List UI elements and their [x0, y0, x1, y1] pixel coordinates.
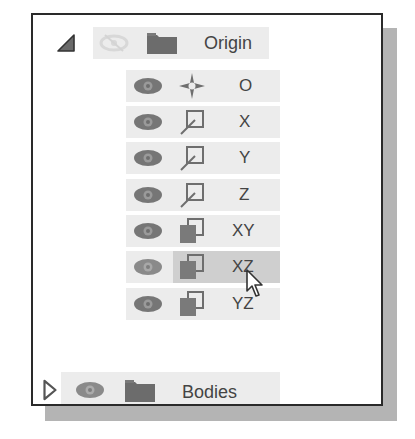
folder-icon: [124, 379, 156, 402]
tree-item-axis-y[interactable]: Y: [33, 142, 381, 174]
eye-icon[interactable]: [133, 186, 163, 204]
eye-hidden-icon[interactable]: [99, 33, 129, 53]
folder-icon: [146, 32, 178, 55]
collapse-triangle-icon[interactable]: [55, 32, 77, 54]
folder-label: Bodies: [182, 376, 237, 406]
eye-icon[interactable]: [133, 77, 163, 95]
axis-icon: [179, 181, 207, 209]
item-label: O: [239, 70, 252, 102]
origin-point-icon: [178, 72, 206, 100]
plane-icon: [177, 289, 207, 319]
tree-folder-origin[interactable]: Origin: [33, 27, 381, 59]
eye-icon[interactable]: [75, 381, 105, 399]
axis-icon: [179, 108, 207, 136]
expand-triangle-icon[interactable]: [39, 379, 61, 401]
tree-item-axis-z[interactable]: Z: [33, 179, 381, 211]
eye-icon[interactable]: [133, 258, 163, 276]
item-label: X: [239, 106, 250, 138]
axis-icon: [179, 144, 207, 172]
tree-folder-bodies[interactable]: Bodies: [33, 372, 381, 404]
eye-icon[interactable]: [133, 222, 163, 240]
plane-icon: [177, 252, 207, 282]
item-label: YZ: [232, 288, 254, 320]
item-label: Y: [239, 142, 250, 174]
item-label: XZ: [232, 251, 254, 283]
folder-label: Origin: [204, 27, 252, 59]
eye-icon[interactable]: [133, 113, 163, 131]
tree-item-plane-xz[interactable]: XZ: [33, 251, 381, 283]
item-label: Z: [239, 179, 249, 211]
tree-item-axis-x[interactable]: X: [33, 106, 381, 138]
tree-item-origin-point[interactable]: O: [33, 70, 381, 102]
item-label: XY: [232, 215, 255, 247]
plane-icon: [177, 216, 207, 246]
browser-tree-panel: Origin O X: [31, 13, 383, 406]
tree-item-plane-yz[interactable]: YZ: [33, 288, 381, 320]
eye-icon[interactable]: [133, 149, 163, 167]
tree-item-plane-xy[interactable]: XY: [33, 215, 381, 247]
eye-icon[interactable]: [133, 295, 163, 313]
